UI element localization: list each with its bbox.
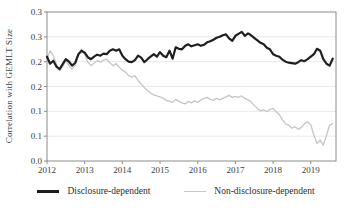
x-tick-label: 2012 xyxy=(38,165,56,175)
legend-item-non-disclosure-dependent: Non-disclosure-dependent xyxy=(184,186,314,196)
x-tick-label: 2013 xyxy=(76,165,95,175)
y-tick-label: 0.3 xyxy=(31,32,43,42)
y-tick-label: 0.2 xyxy=(31,57,42,67)
chart-figure: Correlation with GEMLT Size 0.30.30.20.2… xyxy=(0,0,352,211)
x-tick-label: 2019 xyxy=(302,165,321,175)
x-tick-label: 2014 xyxy=(113,165,132,175)
y-tick-label: 0.1 xyxy=(31,131,42,141)
legend-label: Disclosure-dependent xyxy=(67,186,150,196)
x-tick-label: 2017 xyxy=(226,165,245,175)
y-tick-label: 0.2 xyxy=(31,82,42,92)
gray-line-swatch-icon xyxy=(184,191,206,192)
x-tick-label: 2018 xyxy=(264,165,283,175)
y-tick-label: 0.3 xyxy=(31,7,43,17)
legend-label: Non-disclosure-dependent xyxy=(214,186,314,196)
dark-line-swatch-icon xyxy=(37,190,59,193)
y-tick-label: 0.1 xyxy=(31,106,42,116)
x-tick-label: 2016 xyxy=(189,165,208,175)
x-tick-label: 2015 xyxy=(151,165,170,175)
legend: Disclosure-dependent Non-disclosure-depe… xyxy=(0,181,352,201)
plot-area: 0.30.30.20.20.10.10.02012201320142015201… xyxy=(0,0,352,178)
legend-item-disclosure-dependent: Disclosure-dependent xyxy=(37,186,150,196)
